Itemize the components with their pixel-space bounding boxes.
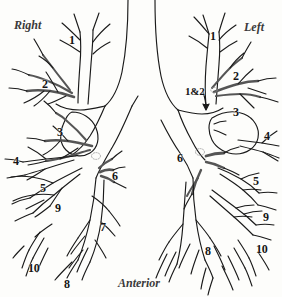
- left-segment-label-3: 3: [233, 106, 239, 118]
- left-segment-label-10: 10: [256, 243, 268, 255]
- right-segment-label-4: 4: [13, 155, 19, 167]
- left-segment-6-branches: [184, 147, 239, 209]
- left-segment-label-9: 9: [263, 211, 269, 223]
- right-segment-2-branches: [9, 39, 74, 106]
- orientation-label-left: Left: [244, 20, 264, 35]
- left-segment-2-branches: [212, 42, 278, 108]
- hilum-markers: [92, 87, 218, 159]
- right-segment-label-1: 1: [69, 34, 75, 46]
- left-segment-3-branches: [214, 121, 226, 135]
- left-segment-label-1and2: 1&2: [185, 86, 205, 97]
- right-lower-lobe-branches: [55, 178, 120, 280]
- left-segment-label-6: 6: [177, 152, 183, 164]
- orientation-label-anterior: Anterior: [118, 276, 160, 291]
- orientation-label-right: Right: [14, 18, 41, 33]
- left-segment-label-1: 1: [210, 30, 216, 42]
- left-segment-label-2: 2: [233, 70, 239, 82]
- right-segment-5-9-branches: [11, 168, 82, 221]
- left-segment-label-8: 8: [205, 245, 211, 257]
- left-segment-5-branches: [218, 168, 277, 210]
- right-segment-label-2: 2: [42, 78, 48, 90]
- bronchial-tree-drawing: [0, 0, 282, 297]
- bronchial-tree-figure: Right Left Anterior 1 2 3 4 5 9 6 7 10 8…: [0, 0, 282, 297]
- left-segment-label-4: 4: [264, 130, 270, 142]
- right-segment-label-7: 7: [100, 221, 106, 233]
- trachea-outline: [105, 0, 178, 110]
- left-segment-label-5: 5: [253, 175, 259, 187]
- right-segment-label-6: 6: [112, 170, 118, 182]
- right-segment-label-9: 9: [55, 202, 61, 214]
- right-segment-label-5: 5: [40, 182, 46, 194]
- right-segment-label-8: 8: [64, 278, 70, 290]
- right-segment-label-3: 3: [57, 126, 63, 138]
- right-segment-label-10: 10: [28, 262, 40, 274]
